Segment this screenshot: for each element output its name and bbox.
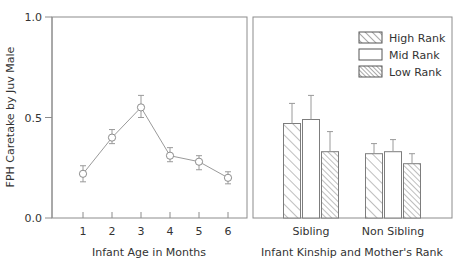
y-axis-title: FPH Caretake by Juv Male [4,46,17,187]
y-tick-label-bottom: 0.0 [25,212,43,225]
data-point-3 [137,95,144,117]
legend-item-high-rank: High Rank [359,32,446,45]
x-tick-label-5: 5 [196,225,203,238]
line-series-path [83,107,228,177]
data-point-5 [195,156,202,170]
x-cat-label-sibling: Sibling [292,225,329,238]
data-point-4 [166,148,173,162]
bar-mid-rank [385,152,402,218]
legend-swatch [359,66,382,77]
bar-low-rank [404,164,421,218]
legend-label: Low Rank [389,66,442,79]
data-marker [195,158,202,165]
left-panel: 1 2 3 4 5 6 Infant Age in Months [52,17,247,259]
right-panel-frame [253,17,452,218]
legend-item-low-rank: Low Rank [359,66,442,79]
bar-low-rank [322,152,339,218]
y-tick-label-top: 1.0 [25,11,43,24]
bar-group-non-sibling [366,140,421,218]
legend-item-mid-rank: Mid Rank [359,49,440,62]
legend-swatch [359,32,382,43]
data-marker [166,152,173,159]
left-panel-x-ticks: 1 2 3 4 5 6 [80,212,232,238]
right-panel-x-ticks: Sibling Non Sibling [292,225,424,238]
y-tick-label-mid: 0.5 [25,112,43,125]
data-point-1 [79,166,86,182]
chart-figure: 1.0 0.5 0.0 FPH Caretake by Juv Male 1 2… [0,0,465,269]
left-panel-x-title: Infant Age in Months [92,246,206,259]
legend-swatch [359,49,382,60]
x-tick-label-3: 3 [138,225,145,238]
data-marker [137,104,144,111]
data-marker [79,170,86,177]
bar-high-rank [284,124,301,219]
data-marker [224,174,231,181]
right-panel-x-title: Infant Kinship and Mother's Rank [261,246,443,259]
bar-group-sibling [284,95,339,218]
x-tick-label-2: 2 [109,225,116,238]
right-panel: Sibling Non Sibling Infant Kinship and M… [253,17,452,259]
legend-label: Mid Rank [389,49,440,62]
x-tick-label-4: 4 [167,225,174,238]
legend: High RankMid RankLow Rank [359,32,446,79]
bar-high-rank [366,154,383,218]
bar-series-layer [284,95,421,218]
line-series-layer [79,95,231,183]
left-panel-frame [52,17,247,218]
bar-mid-rank [303,120,320,219]
legend-label: High Rank [389,32,446,45]
data-point-6 [224,172,231,184]
data-marker [108,134,115,141]
x-tick-label-1: 1 [80,225,87,238]
chart-canvas: 1.0 0.5 0.0 FPH Caretake by Juv Male 1 2… [0,0,465,269]
x-tick-label-6: 6 [225,225,232,238]
x-cat-label-non-sibling: Non Sibling [362,225,425,238]
y-axis: 1.0 0.5 0.0 FPH Caretake by Juv Male [4,11,52,225]
